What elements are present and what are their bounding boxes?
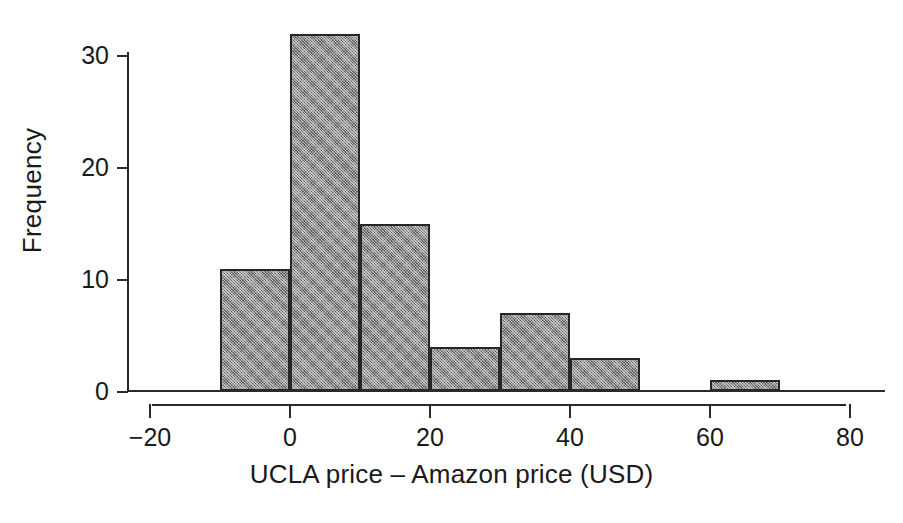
plot-area — [0, 0, 903, 400]
x-axis-tick-label: −20 — [105, 423, 195, 451]
x-axis-tick-label: 0 — [245, 423, 335, 451]
x-axis-tick — [289, 404, 291, 418]
x-axis-tick-label: 80 — [805, 423, 895, 451]
histogram-bar — [500, 313, 570, 391]
x-axis-tick — [569, 404, 571, 418]
histogram-bar — [570, 358, 640, 392]
x-axis-line — [152, 404, 846, 406]
x-axis-tick — [709, 404, 711, 418]
x-axis-tick-label: 40 — [525, 423, 615, 451]
x-axis-tick-label: 60 — [665, 423, 755, 451]
histogram-figure: Frequency 0102030 −20020406080 UCLA pric… — [0, 0, 903, 523]
x-axis-title: UCLA price – Amazon price (USD) — [0, 459, 903, 490]
histogram-bar — [220, 269, 290, 392]
x-axis-tick — [149, 404, 151, 418]
x-axis-tick-label: 20 — [385, 423, 475, 451]
x-axis-tick — [849, 404, 851, 418]
histogram-bar — [290, 34, 360, 391]
x-axis-tick — [429, 404, 431, 418]
histogram-bar — [430, 347, 500, 392]
plot-baseline — [127, 390, 885, 392]
histogram-bar — [360, 224, 430, 392]
